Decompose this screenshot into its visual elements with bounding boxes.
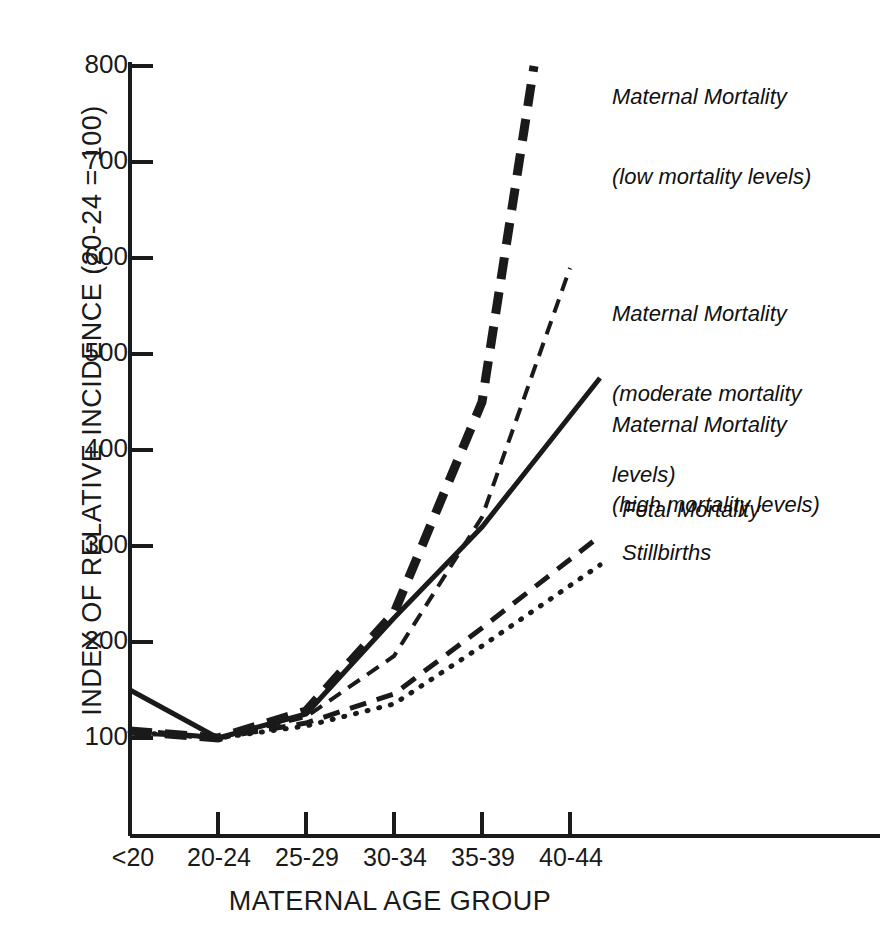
y-axis-ticks — [130, 66, 153, 738]
y-tick-500: 500 — [10, 339, 128, 365]
x-axis-ticks — [218, 812, 570, 836]
y-tick-700: 700 — [10, 147, 128, 173]
y-tick-400: 400 — [10, 435, 128, 461]
annotation-fetal-mortality: Fetal Mortality — [622, 497, 760, 524]
y-tick-300: 300 — [10, 531, 128, 557]
series-fetal-mortality — [130, 536, 600, 738]
y-tick-600: 600 — [10, 243, 128, 269]
annotation-stillbirths: Stillbirths — [622, 540, 711, 567]
annotation-maternal-low: Maternal Mortality (low mortality levels… — [612, 30, 811, 245]
y-axis-title: INDEX OF RELATIVE INCIDENCE (20-24 = 100… — [77, 91, 108, 731]
annotation-maternal-moderate-line1: Maternal Mortality — [612, 301, 864, 328]
annotation-maternal-high-line1: Maternal Mortality — [612, 412, 820, 439]
x-axis-title: MATERNAL AGE GROUP — [130, 886, 650, 917]
y-tick-100: 100 — [10, 723, 128, 749]
x-tick-40-44: 40-44 — [516, 845, 626, 870]
chart-figure: 800 700 600 500 400 300 200 100 <20 20-2… — [0, 0, 891, 933]
y-tick-800: 800 — [10, 51, 128, 77]
series-maternal-high — [130, 378, 600, 738]
y-tick-200: 200 — [10, 627, 128, 653]
annotation-maternal-low-line1: Maternal Mortality — [612, 84, 811, 111]
annotation-maternal-low-line2: (low mortality levels) — [612, 164, 811, 191]
y-tick-label-group: 800 700 600 500 400 300 200 100 — [0, 0, 128, 933]
